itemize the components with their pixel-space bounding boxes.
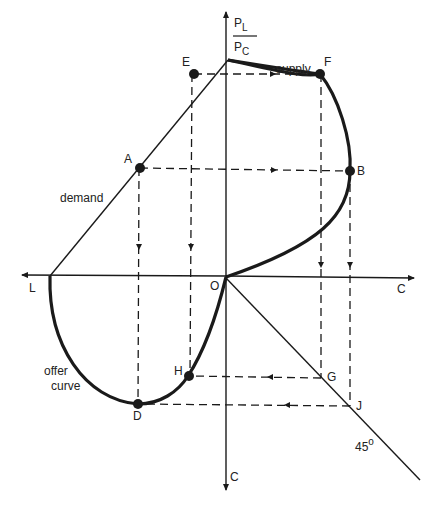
horizontal-axis-left	[22, 275, 226, 276]
label-point-d: D	[133, 409, 142, 423]
point-h	[184, 371, 194, 381]
horizontal-axis-right	[226, 276, 414, 278]
arrow-right-ab	[271, 167, 277, 173]
arrow-left-jd	[284, 402, 290, 408]
axis-label-l: L	[29, 281, 36, 295]
label-point-h: H	[174, 364, 183, 378]
point-a	[135, 163, 145, 173]
point-e	[189, 69, 199, 79]
point-b	[345, 166, 355, 176]
demand-label: demand	[60, 191, 103, 205]
supply-curve	[226, 60, 350, 277]
offer-curve-diagram: PL PC supply demand offer curve L C C O …	[0, 0, 436, 507]
dash-j-to-d	[138, 404, 350, 406]
points	[133, 69, 355, 409]
label-point-g: G	[327, 370, 336, 384]
dash-g-to-h	[190, 376, 321, 378]
label-point-j: J	[356, 399, 362, 413]
dash-e-to-h	[190, 74, 192, 376]
axis-label-c-right: C	[397, 282, 406, 296]
arrow-down-eh	[188, 244, 194, 250]
arrow-down-ad	[136, 244, 142, 250]
projection-lines	[138, 74, 350, 406]
supply-label: supply	[276, 62, 311, 76]
label-point-b: B	[357, 164, 365, 178]
svg-text:PC: PC	[234, 40, 249, 57]
label-point-e: E	[182, 55, 190, 69]
svg-text:PL: PL	[234, 16, 248, 33]
axis-label-c-bottom: C	[230, 470, 239, 484]
point-d	[133, 399, 143, 409]
dash-a-to-d	[138, 168, 139, 404]
axes	[22, 12, 414, 490]
vertical-axis-label: PL PC	[233, 16, 257, 57]
label-point-f: F	[324, 55, 331, 69]
arrow-left-gh	[267, 374, 273, 380]
arrow-down-fg	[318, 262, 324, 268]
forty-five-degree-line	[226, 278, 420, 480]
offer-curve-label-2: curve	[51, 379, 81, 393]
dash-a-to-b	[140, 168, 350, 171]
angle-label: 45o	[355, 436, 374, 454]
point-f	[315, 69, 325, 79]
offer-curve-label-1: offer	[44, 364, 68, 378]
origin-label: O	[210, 279, 219, 293]
direction-arrows	[136, 71, 353, 408]
label-point-a: A	[124, 152, 132, 166]
arrow-down-bj	[347, 262, 353, 268]
